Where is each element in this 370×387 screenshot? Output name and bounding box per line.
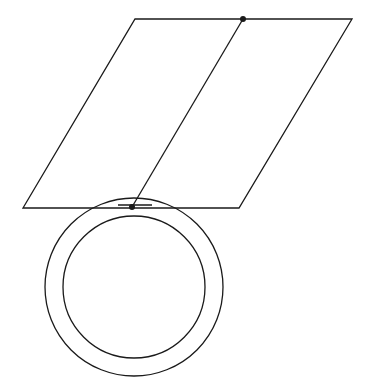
connecting-line xyxy=(132,19,243,207)
diagram-canvas xyxy=(0,0,370,387)
bottom-point xyxy=(129,204,135,210)
top-point xyxy=(240,16,246,22)
outer-circle xyxy=(45,198,223,376)
inner-circle xyxy=(63,216,205,358)
